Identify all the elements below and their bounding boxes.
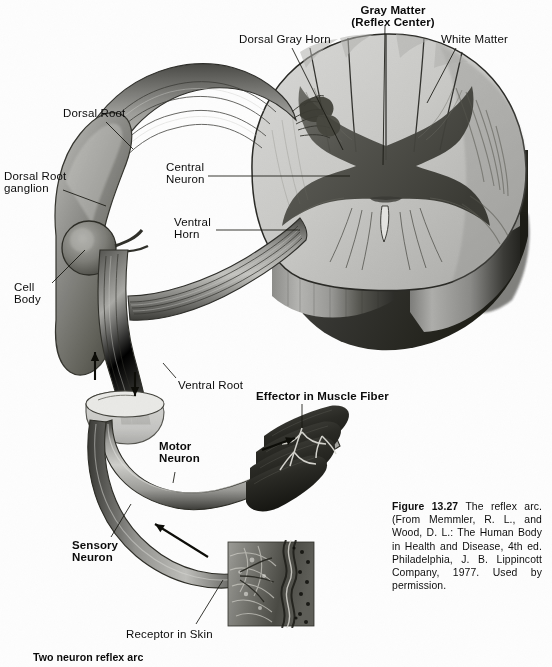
label-white-matter: White Matter (441, 33, 508, 45)
label-cell-body: Cell Body (14, 281, 41, 306)
leader-ventral-root (163, 363, 176, 378)
label-sensory-neuron: Sensory Neuron (72, 539, 118, 564)
label-dorsal-gray-horn: Dorsal Gray Horn (239, 33, 331, 45)
figure-footer-title: Two neuron reflex arc (33, 651, 143, 663)
receptor-in-skin (228, 540, 314, 628)
leader-motor-neuron (173, 472, 175, 483)
caption-body: The reflex arc. (From Memmler, R. L., an… (392, 501, 542, 591)
caption-figure-number: 13.27 (432, 501, 459, 512)
label-dorsal-root-ganglion: Dorsal Root ganglion (4, 170, 66, 195)
label-receptor-in-skin: Receptor in Skin (126, 628, 213, 640)
arrow-sensory-in (155, 524, 208, 557)
label-effector-muscle: Effector in Muscle Fiber (256, 390, 389, 402)
label-gray-matter: Gray Matter (Reflex Center) (333, 4, 453, 29)
effector-muscle-fiber (246, 406, 349, 512)
label-central-neuron: Central Neuron (166, 161, 205, 186)
label-ventral-root: Ventral Root (178, 379, 243, 391)
label-dorsal-root: Dorsal Root (63, 107, 125, 119)
figure-caption: Figure 13.27 The reflex arc. (From Memml… (392, 500, 542, 592)
label-ventral-horn: Ventral Horn (174, 216, 211, 241)
caption-figure-word: Figure (392, 501, 424, 512)
figure-page: Gray Matter (Reflex Center)Dorsal Gray H… (0, 0, 552, 667)
label-motor-neuron: Motor Neuron (159, 440, 200, 465)
